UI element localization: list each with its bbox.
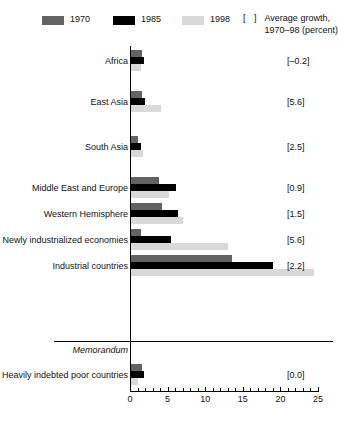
- x-axis-label-15: 15: [238, 394, 248, 404]
- growth-annotation-g5: [5.6]: [287, 235, 305, 245]
- chart-group-g3: Middle East and Europe[0.9]: [0, 177, 333, 198]
- x-axis-line: [130, 391, 319, 392]
- bar-g3-1985: [130, 184, 176, 191]
- x-axis-tick-5: [168, 387, 169, 391]
- x-axis-label-10: 10: [200, 394, 210, 404]
- x-axis-label-25: 25: [313, 394, 323, 404]
- bar-g1-1985: [130, 98, 145, 105]
- chart-group-g2: South Asia[2.5]: [0, 136, 333, 157]
- bar-g0-1970: [130, 50, 142, 57]
- bar-g4-1985: [130, 210, 178, 217]
- bar-g2-1985: [130, 143, 141, 150]
- bar-g3-1970: [130, 177, 159, 184]
- bar-g1-1970: [130, 91, 142, 98]
- x-axis-tick-0: [130, 387, 131, 391]
- bar-g5-1985: [130, 236, 171, 243]
- x-axis-tick-minor-18: [265, 388, 266, 391]
- legend-item-1970: 1970: [42, 14, 90, 25]
- x-axis-tick-minor-16: [250, 388, 251, 391]
- bar-g4-1970: [130, 203, 162, 210]
- category-label-g1: East Asia: [90, 97, 128, 107]
- bar-g5-1998: [130, 243, 228, 250]
- bar-memo0-1970: [130, 364, 142, 371]
- x-axis: 0510152025: [130, 391, 319, 423]
- x-axis-tick-minor-1: [138, 388, 139, 391]
- category-label-g5: Newly industrialized economies: [2, 235, 128, 245]
- bar-group-g3: [130, 177, 176, 198]
- legend-growth-note: [ ] Average growth, 1970–98 (percent): [243, 13, 338, 36]
- bar-g5-1970: [130, 229, 141, 236]
- bar-g0-1985: [130, 57, 144, 64]
- memorandum-title: Memorandum: [72, 345, 128, 355]
- x-axis-tick-minor-22: [295, 388, 296, 391]
- x-axis-tick-minor-19: [273, 388, 274, 391]
- bar-g4-1998: [130, 217, 183, 224]
- category-label-g6: Industrial countries: [52, 261, 128, 271]
- legend-note-line1: Average growth,: [265, 13, 330, 23]
- x-axis-tick-minor-12: [220, 388, 221, 391]
- x-axis-tick-minor-21: [288, 388, 289, 391]
- x-axis-tick-10: [205, 387, 206, 391]
- chart-group-g4: Western Hemisphere[1.5]: [0, 203, 333, 224]
- chart-group-g5: Newly industrialized economies[5.6]: [0, 229, 333, 250]
- x-axis-tick-minor-7: [183, 388, 184, 391]
- x-axis-tick-minor-2: [145, 388, 146, 391]
- legend-item-1998: 1998: [182, 14, 230, 25]
- x-axis-tick-20: [280, 387, 281, 391]
- growth-annotation-g0: [–0.2]: [287, 56, 310, 66]
- bar-g3-1998: [130, 191, 169, 198]
- bar-group-g2: [130, 136, 143, 157]
- zero-axis-line: [130, 46, 131, 391]
- x-axis-tick-25: [318, 387, 319, 391]
- x-axis-tick-minor-11: [213, 388, 214, 391]
- legend-swatch-1998: [182, 16, 204, 25]
- legend-note-line2: 1970–98 (percent): [265, 25, 338, 35]
- x-axis-tick-minor-13: [228, 388, 229, 391]
- bar-g2-1998: [130, 150, 143, 157]
- chart-group-g0: Africa[–0.2]: [0, 50, 333, 71]
- x-axis-label-5: 5: [165, 394, 170, 404]
- category-label-g3: Middle East and Europe: [32, 183, 128, 193]
- chart-legend: 1970 1985 1998 [ ] Average growth, 1970–…: [0, 0, 333, 44]
- bar-group-g0: [130, 50, 144, 71]
- category-label-g0: Africa: [105, 56, 128, 66]
- legend-item-1985: 1985: [113, 14, 161, 25]
- category-label-g4: Western Hemisphere: [44, 209, 128, 219]
- growth-annotation-g4: [1.5]: [287, 209, 305, 219]
- growth-annotation-memo0: [0.0]: [287, 370, 305, 380]
- category-label-memo0: Heavily indebted poor countries: [2, 370, 128, 380]
- legend-swatch-1970: [42, 16, 64, 25]
- chart-group-g6: Industrial countries[2.2]: [0, 255, 333, 276]
- x-axis-tick-minor-8: [190, 388, 191, 391]
- legend-label-1985: 1985: [141, 14, 161, 25]
- x-axis-tick-15: [243, 387, 244, 391]
- x-axis-tick-minor-6: [175, 388, 176, 391]
- bar-memo0-1998: [130, 378, 138, 385]
- bar-group-memo0: [130, 364, 144, 385]
- x-axis-tick-minor-14: [235, 388, 236, 391]
- legend-swatch-1985: [113, 16, 135, 25]
- x-axis-tick-minor-17: [258, 388, 259, 391]
- x-axis-tick-minor-24: [310, 388, 311, 391]
- legend-note-text: Average growth, 1970–98 (percent): [265, 13, 338, 36]
- x-axis-tick-minor-9: [198, 388, 199, 391]
- growth-annotation-g6: [2.2]: [287, 261, 305, 271]
- bar-group-g1: [130, 91, 161, 112]
- growth-annotation-g3: [0.9]: [287, 183, 305, 193]
- memorandum-separator: [54, 341, 333, 342]
- bar-g2-1970: [130, 136, 138, 143]
- legend-label-1998: 1998: [210, 14, 230, 25]
- legend-label-1970: 1970: [70, 14, 90, 25]
- bar-group-g4: [130, 203, 183, 224]
- chart-group-g1: East Asia[5.6]: [0, 91, 333, 112]
- legend-bracket-symbol: [ ]: [243, 13, 260, 24]
- bar-g0-1998: [130, 64, 141, 71]
- bar-group-g5: [130, 229, 228, 250]
- chart-group-memo0: Heavily indebted poor countries[0.0]: [0, 364, 333, 385]
- category-label-g2: South Asia: [85, 142, 128, 152]
- bar-memo0-1985: [130, 371, 144, 378]
- x-axis-label-20: 20: [275, 394, 285, 404]
- bar-g1-1998: [130, 105, 161, 112]
- bar-g6-1985: [130, 262, 273, 269]
- bar-g6-1970: [130, 255, 232, 262]
